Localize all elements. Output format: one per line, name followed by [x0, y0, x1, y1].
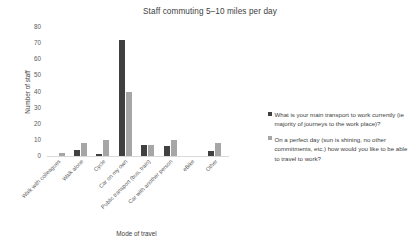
y-axis-tick-labels: 01020304050607080 — [0, 27, 45, 156]
y-axis-tick: 20 — [34, 121, 41, 127]
x-axis-tick-cell: eBike — [181, 157, 203, 227]
bar — [215, 143, 221, 156]
bar — [81, 143, 87, 156]
x-axis-tick-cell: Walk alone — [69, 157, 91, 227]
legend-label: What is your main transport to work curr… — [275, 110, 415, 129]
x-axis-title: Mode of travel — [47, 230, 226, 237]
y-axis-tick: 30 — [34, 104, 41, 110]
plot-area — [47, 27, 226, 156]
x-axis-tick-cell: Walk with colleagues — [47, 157, 69, 227]
bar — [171, 140, 177, 156]
y-axis-tick: 10 — [34, 137, 41, 143]
bar-group — [137, 27, 159, 156]
x-axis-tick: eBike — [183, 159, 197, 173]
y-axis-tick: 50 — [34, 72, 41, 78]
chart-legend: What is your main transport to work curr… — [268, 110, 414, 169]
x-axis-tick: Other — [205, 159, 219, 173]
bar — [119, 40, 125, 156]
bar-group — [204, 27, 226, 156]
bar-group — [159, 27, 181, 156]
bar — [126, 92, 132, 157]
legend-item[interactable]: What is your main transport to work curr… — [268, 110, 414, 129]
y-axis-tick: 0 — [37, 153, 41, 159]
bar-group — [181, 27, 203, 156]
x-axis-tick-cell: Other — [204, 157, 226, 227]
bar-group — [114, 27, 136, 156]
x-axis-tick: Walk with colleagues — [21, 159, 62, 200]
bar-groups — [47, 27, 226, 156]
y-axis-tick: 80 — [34, 24, 41, 30]
bar-group — [69, 27, 91, 156]
legend-label: On a perfect day (sun is shining, no oth… — [275, 135, 415, 163]
y-axis-tick: 60 — [34, 56, 41, 62]
x-axis-tick: Cycle — [93, 159, 107, 173]
bar — [103, 140, 109, 156]
x-axis-tick-labels: Walk with colleaguesWalk aloneCycleCar o… — [47, 157, 226, 227]
bar — [141, 145, 147, 156]
chart-title: Staff commuting 5–10 miles per day — [0, 7, 420, 16]
x-axis-tick-cell: Cycle — [92, 157, 114, 227]
y-axis-tick: 40 — [34, 88, 41, 94]
legend-square-marker-icon — [268, 136, 272, 140]
bar-group — [92, 27, 114, 156]
bar-chart: Staff commuting 5–10 miles per day Numbe… — [0, 0, 420, 250]
y-axis-tick: 70 — [34, 40, 41, 46]
legend-square-marker-icon — [268, 112, 272, 116]
bar-group — [47, 27, 69, 156]
bar — [164, 146, 170, 156]
x-axis-tick-cell: Car with another person — [159, 157, 181, 227]
bar — [148, 145, 154, 156]
legend-item[interactable]: On a perfect day (sun is shining, no oth… — [268, 135, 414, 163]
